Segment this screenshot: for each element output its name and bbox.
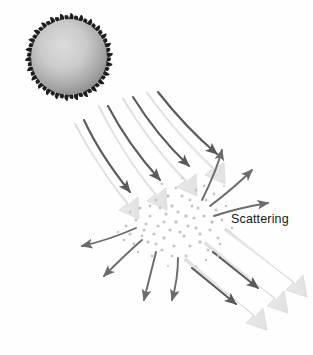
transmitted-thin-arrow-2 [213,252,258,288]
transmitted-beam-1 [184,258,267,330]
incident-thin-arrows [84,92,217,192]
scatter-arrow-down-left-2 [144,252,156,300]
scattering-label: Scattering [231,212,289,226]
transmitted-beam-3 [224,228,307,297]
scatter-arrow-down-left-1 [104,240,142,276]
virus-particle [25,13,114,101]
incident-beam-1 [74,123,139,219]
incident-beam-2 [98,106,167,210]
incident-beam-4 [146,92,225,184]
diagram-canvas [0,0,313,355]
virus-core [31,19,107,95]
scatter-arrow-down [172,258,178,300]
scatter-arrow-left [82,228,136,246]
transmitted-thin-arrow-1 [192,268,236,304]
incident-thin-arrow-4 [158,92,217,154]
scattering-diagram: Scattering [0,0,313,355]
incident-thin-arrow-3 [133,97,189,166]
